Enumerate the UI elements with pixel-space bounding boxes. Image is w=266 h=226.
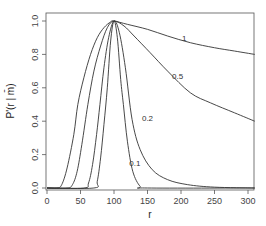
y-tick-label: 0.6 xyxy=(30,82,40,95)
x-tick-label: 50 xyxy=(75,196,85,206)
y-tick-label: 1.0 xyxy=(30,15,40,28)
y-tick-label: 0.4 xyxy=(30,115,40,128)
curve-label: 0.5 xyxy=(172,72,184,81)
x-tick-label: 300 xyxy=(240,196,255,206)
plot-frame xyxy=(46,13,254,190)
curve-sigma-1 xyxy=(47,21,255,188)
curve-label: 0.2 xyxy=(142,114,154,123)
y-axis-title: P'(r | m̄) xyxy=(4,83,16,118)
curves: 10.50.20.1 xyxy=(47,21,255,189)
y-tick-label: 0.0 xyxy=(30,182,40,195)
x-axis-title: r xyxy=(148,209,152,220)
x-tick-label: 0 xyxy=(44,196,49,206)
y-tick-label: 0.2 xyxy=(30,148,40,161)
x-tick-label: 150 xyxy=(140,196,155,206)
curve-label: 0.1 xyxy=(129,159,141,168)
y-axis: 0.00.20.40.60.81.0 xyxy=(30,15,46,195)
y-tick-label: 0.8 xyxy=(30,48,40,61)
x-tick-label: 200 xyxy=(173,196,188,206)
curve-label: 1 xyxy=(182,34,187,43)
chart: 050100150200250300 0.00.20.40.60.81.0 10… xyxy=(0,0,266,226)
plot-area xyxy=(46,13,254,190)
x-axis: 050100150200250300 xyxy=(44,190,255,206)
x-tick-label: 250 xyxy=(207,196,222,206)
x-tick-label: 100 xyxy=(106,196,121,206)
